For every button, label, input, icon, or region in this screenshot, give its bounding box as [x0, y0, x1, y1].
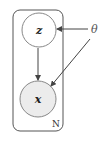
node-z: z: [22, 13, 56, 47]
node-x: x: [20, 81, 56, 117]
graphical-model-diagram: N z x θ: [0, 0, 108, 141]
parameter-theta-label: θ: [91, 23, 98, 36]
plate-label: N: [52, 119, 60, 129]
node-z-label: z: [35, 24, 43, 37]
edge-theta-to-x: [51, 39, 90, 86]
node-x-label: x: [34, 93, 42, 106]
